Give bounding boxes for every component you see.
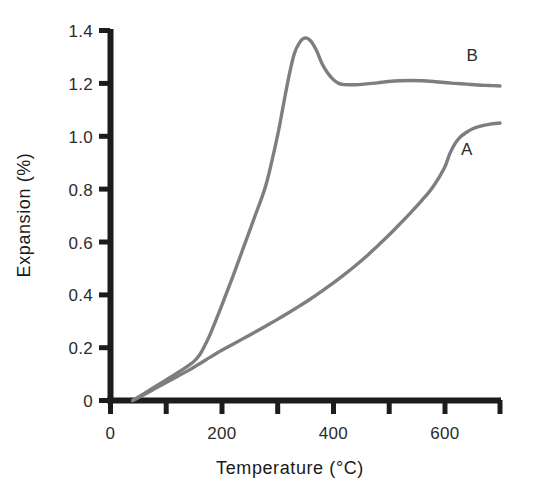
chart-canvas: 1.4 1.2 1.0 0.8 0.6 0.4 0.2 0 0 200 400 … (0, 0, 535, 495)
y-tick-label-1.0: 1.0 (68, 128, 93, 147)
y-tick-label-0.6: 0.6 (68, 234, 93, 253)
curve-series-b (133, 38, 500, 401)
x-tick-label-600: 600 (430, 424, 459, 443)
x-tick-label-200: 200 (207, 424, 236, 443)
y-tick-labels: 1.4 1.2 1.0 0.8 0.6 0.4 0.2 0 (68, 22, 93, 411)
y-tick-label-1.4: 1.4 (68, 22, 93, 41)
series-label-a: A (461, 140, 473, 159)
y-axis-title: Expansion (%) (14, 153, 34, 278)
x-tick-labels: 0 200 400 600 (106, 424, 460, 443)
curve-series-a (133, 123, 500, 401)
expansion-vs-temperature-chart: 1.4 1.2 1.0 0.8 0.6 0.4 0.2 0 0 200 400 … (0, 0, 535, 495)
y-tick-label-1.2: 1.2 (68, 75, 93, 94)
x-tick-label-0: 0 (106, 424, 116, 443)
y-tick-label-0.8: 0.8 (68, 181, 93, 200)
series-label-b: B (467, 46, 478, 65)
axes-group (107, 29, 501, 401)
y-tick-label-0: 0 (83, 392, 93, 411)
data-curves (133, 38, 500, 401)
y-tick-label-0.2: 0.2 (68, 339, 93, 358)
y-tick-label-0.4: 0.4 (68, 286, 93, 305)
x-axis-title: Temperature (°C) (216, 458, 364, 478)
x-tick-label-400: 400 (319, 424, 348, 443)
